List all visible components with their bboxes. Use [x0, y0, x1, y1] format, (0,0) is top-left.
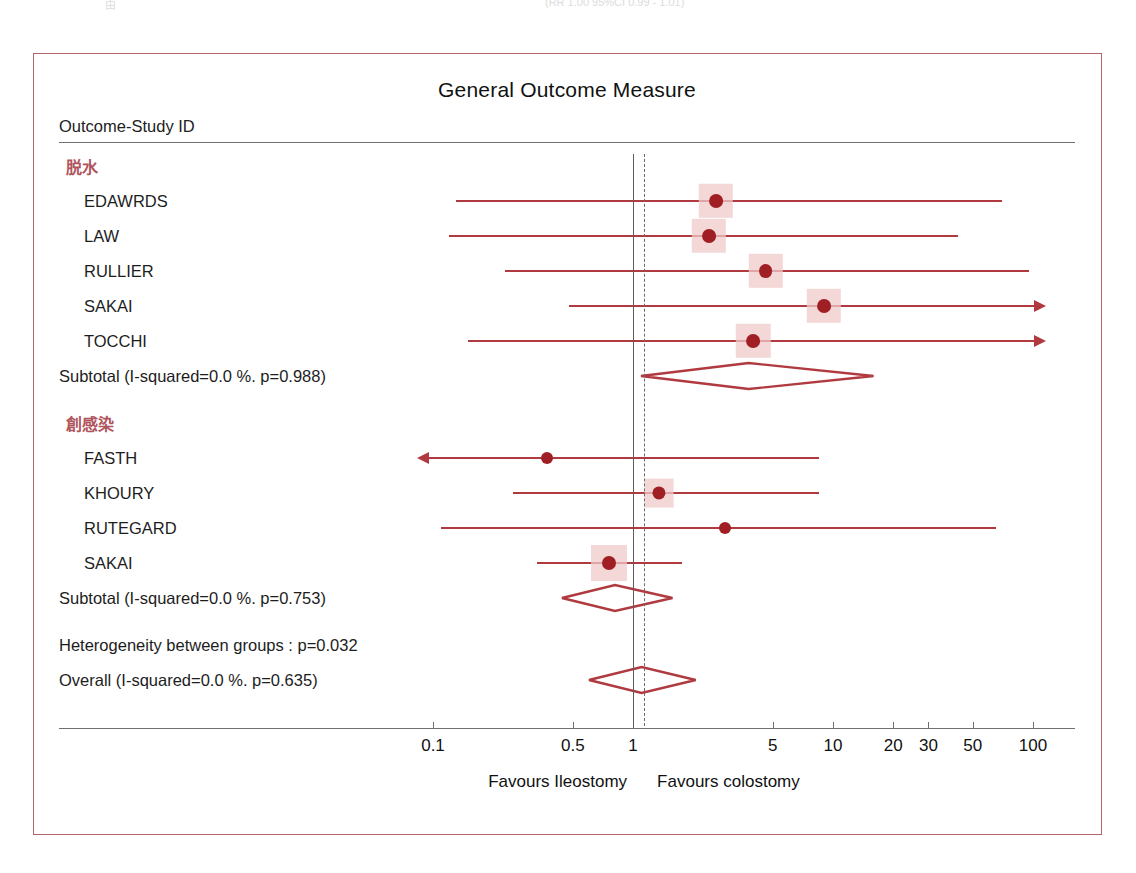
overall-label: Overall (I-squared=0.0 %. p=0.635) — [59, 671, 318, 690]
axis-tick-label: 0.5 — [561, 736, 585, 756]
pooled-reference-line — [644, 154, 645, 726]
axis-tick-label: 100 — [1019, 736, 1047, 756]
axis-tick — [973, 722, 974, 728]
point-estimate-marker[interactable] — [702, 229, 716, 243]
ci-arrow-left-icon — [417, 452, 429, 464]
axis-tick — [433, 722, 434, 728]
study-label: RULLIER — [84, 262, 154, 281]
ci-arrow-right-icon — [1034, 300, 1046, 312]
point-estimate-marker[interactable] — [709, 194, 723, 208]
point-estimate-marker[interactable] — [602, 556, 616, 570]
axis-tick-label: 30 — [919, 736, 938, 756]
study-label: RUTEGARD — [84, 519, 177, 538]
right-axis-caption: Favours colostomy — [657, 772, 800, 792]
study-label: FASTH — [84, 449, 137, 468]
axis-tick-label: 50 — [963, 736, 982, 756]
column-header: Outcome-Study ID — [59, 117, 195, 136]
axis-rule — [59, 728, 1075, 729]
plot-canvas: General Outcome Measure Outcome-Study ID… — [34, 54, 1100, 833]
study-label: SAKAI — [84, 554, 133, 573]
study-label: KHOURY — [84, 484, 154, 503]
overall-diamond — [589, 667, 696, 693]
point-estimate-marker[interactable] — [817, 299, 831, 313]
axis-tick — [773, 722, 774, 728]
study-label: EDAWRDS — [84, 192, 168, 211]
forest-plot-figure: General Outcome Measure Outcome-Study ID… — [33, 53, 1102, 835]
subtotal-label-1: Subtotal (I-squared=0.0 %. p=0.988) — [59, 367, 326, 386]
study-label: LAW — [84, 227, 119, 246]
axis-tick-label: 0.1 — [421, 736, 445, 756]
axis-tick — [928, 722, 929, 728]
axis-tick-label: 20 — [884, 736, 903, 756]
axis-tick — [893, 722, 894, 728]
ci-arrow-right-icon — [1034, 335, 1046, 347]
study-label: SAKAI — [84, 297, 133, 316]
subtotal-diamond-2 — [562, 585, 672, 611]
point-estimate-marker[interactable] — [719, 522, 731, 534]
confidence-interval-line — [441, 527, 995, 529]
group-label-2: 創感染 — [66, 411, 114, 435]
scan-top-cut-text: 由 (RR 1.00 95%CI 0.99 - 1.01) — [0, 0, 1136, 16]
study-label: TOCCHI — [84, 332, 147, 351]
axis-tick-label: 10 — [824, 736, 843, 756]
null-reference-line — [633, 154, 634, 728]
scan-fragment-right: (RR 1.00 95%CI 0.99 - 1.01) — [545, 0, 684, 8]
point-estimate-marker[interactable] — [759, 264, 773, 278]
scan-fragment-left: 由 — [105, 0, 116, 12]
group-label-1: 脱水 — [66, 154, 98, 178]
left-axis-caption: Favours Ileostomy — [488, 772, 627, 792]
subtotal-diamond-1 — [641, 363, 874, 389]
heterogeneity-note: Heterogeneity between groups : p=0.032 — [59, 636, 358, 655]
axis-tick — [573, 722, 574, 728]
confidence-interval-line — [429, 457, 819, 459]
confidence-interval-line — [569, 305, 1034, 307]
subtotal-label-2: Subtotal (I-squared=0.0 %. p=0.753) — [59, 589, 326, 608]
point-estimate-marker[interactable] — [541, 452, 553, 464]
point-estimate-marker[interactable] — [747, 334, 761, 348]
page-title: General Outcome Measure — [34, 78, 1100, 102]
axis-tick — [1033, 722, 1034, 728]
axis-tick — [833, 722, 834, 728]
header-rule — [59, 142, 1075, 143]
axis-tick-label: 1 — [628, 736, 637, 756]
axis-tick-label: 5 — [768, 736, 777, 756]
